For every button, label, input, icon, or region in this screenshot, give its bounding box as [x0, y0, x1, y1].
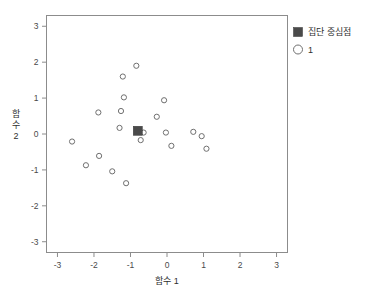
x-tick-label: -3 [54, 260, 62, 270]
legend-cluster-label: 1 [308, 45, 313, 55]
y-tick-label: -1 [31, 165, 39, 175]
legend-centroid-label: 집단 중심점 [308, 26, 351, 37]
scatter-plot-figure: -3-2-10123 3210-1-2-3 함수 1 함수2 집단 중심점 1 [0, 0, 369, 297]
y-axis-title-line: 함 [12, 109, 20, 119]
x-tick-label: 2 [238, 260, 243, 270]
y-tick-label: 3 [34, 21, 39, 31]
x-tick-label: -1 [127, 260, 135, 270]
x-tick-label: -2 [90, 260, 98, 270]
y-tick-label: -3 [31, 237, 39, 247]
plot-canvas: -3-2-10123 3210-1-2-3 함수 1 함수2 집단 중심점 1 [0, 0, 369, 297]
legend-centroid-swatch [294, 28, 303, 37]
x-tick-label: 0 [165, 260, 170, 270]
y-tick-label: 2 [34, 57, 39, 67]
y-axis-title-line: 수 [12, 120, 20, 130]
y-tick-label: 1 [34, 93, 39, 103]
y-tick-label: 0 [34, 129, 39, 139]
x-tick-label: 3 [274, 260, 279, 270]
centroid-marker [133, 126, 142, 135]
y-axis-title-line: 2 [13, 131, 18, 141]
x-axis-title: 함수 1 [155, 276, 179, 286]
x-tick-label: 1 [201, 260, 206, 270]
centroid-marker-group [133, 126, 142, 135]
y-tick-label: -2 [31, 201, 39, 211]
